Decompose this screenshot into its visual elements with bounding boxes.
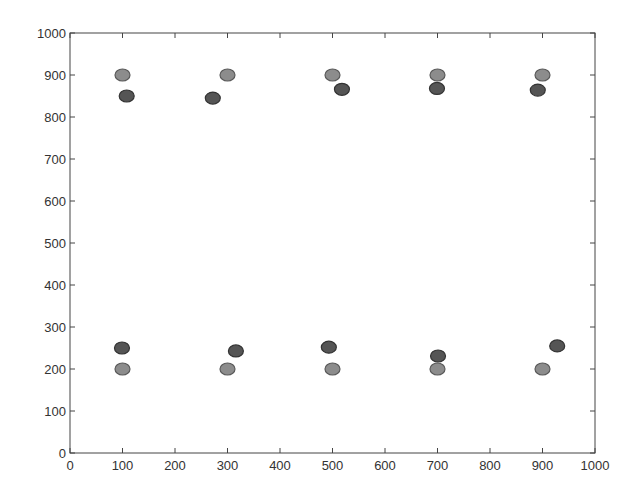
chart-canvas: 01002003004005006007008009001000 0100200… — [0, 0, 641, 495]
y-tick-label: 700 — [44, 152, 66, 167]
y-tick-label: 1000 — [37, 26, 66, 41]
y-tick-label: 600 — [44, 194, 66, 209]
plot-area — [70, 33, 595, 453]
y-tick-label: 0 — [59, 446, 66, 461]
data-point-light — [325, 69, 340, 81]
y-tick-label: 300 — [44, 320, 66, 335]
data-point-dark — [205, 92, 220, 104]
data-point-dark — [321, 341, 336, 353]
data-point-dark — [429, 82, 444, 94]
data-point-dark — [228, 345, 243, 357]
data-point-dark — [431, 350, 446, 362]
data-point-light — [535, 363, 550, 375]
data-point-light — [220, 363, 235, 375]
x-tick-label: 600 — [374, 458, 396, 473]
data-point-light — [115, 363, 130, 375]
data-point-light — [325, 363, 340, 375]
data-point-dark — [530, 84, 545, 96]
data-point-light — [115, 69, 130, 81]
y-tick-label: 200 — [44, 362, 66, 377]
data-point-light — [220, 69, 235, 81]
data-point-light — [430, 69, 445, 81]
scatter-chart: 01002003004005006007008009001000 0100200… — [0, 0, 641, 495]
x-tick-label: 300 — [217, 458, 239, 473]
data-point-light — [430, 363, 445, 375]
x-tick-label: 400 — [269, 458, 291, 473]
x-tick-label: 100 — [112, 458, 134, 473]
y-tick-label: 900 — [44, 68, 66, 83]
y-tick-label: 400 — [44, 278, 66, 293]
x-tick-label: 200 — [164, 458, 186, 473]
x-tick-label: 1000 — [581, 458, 610, 473]
y-tick-label: 800 — [44, 110, 66, 125]
x-tick-label: 700 — [427, 458, 449, 473]
x-tick-label: 900 — [532, 458, 554, 473]
data-point-dark — [334, 83, 349, 95]
data-point-dark — [114, 342, 129, 354]
x-tick-label: 800 — [479, 458, 501, 473]
data-point-light — [535, 69, 550, 81]
y-tick-label: 500 — [44, 236, 66, 251]
y-tick-label: 100 — [44, 404, 66, 419]
x-tick-label: 0 — [66, 458, 73, 473]
data-point-dark — [550, 340, 565, 352]
x-tick-label: 500 — [322, 458, 344, 473]
data-point-dark — [119, 90, 134, 102]
